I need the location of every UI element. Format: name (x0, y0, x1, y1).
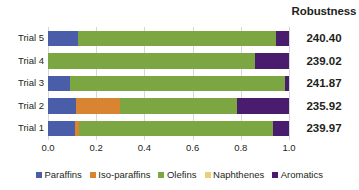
row-label-trial-5: Trial 5 (0, 27, 44, 50)
stacked-bar-chart: Robustness Trial 5240.40Trial 4239.02Tri… (0, 0, 359, 190)
chart-row: Trial 2235.92 (0, 95, 359, 118)
bar-segment-paraffins (48, 31, 78, 46)
robustness-column-header: Robustness (289, 5, 359, 17)
x-tick-label: 0.2 (76, 142, 116, 153)
row-label-trial-2: Trial 2 (0, 95, 44, 118)
chart-row: Trial 4239.02 (0, 50, 359, 73)
row-label-trial-1: Trial 1 (0, 117, 44, 140)
legend-item-olefins[interactable]: Olefins (158, 170, 196, 180)
x-axis: 0.00.20.40.60.81.0 (0, 140, 359, 160)
legend-label: Naphthenes (213, 170, 264, 180)
x-tick-label: 0.6 (173, 142, 213, 153)
legend-swatch-icon (36, 172, 42, 178)
row-label-trial-4: Trial 4 (0, 50, 44, 73)
bar-track (48, 76, 289, 91)
robustness-value: 239.02 (289, 50, 359, 73)
x-tick-label: 0.8 (221, 142, 261, 153)
chart-row: Trial 3241.87 (0, 72, 359, 95)
bar-segment-olefins (79, 121, 273, 136)
legend-item-iso-paraffins[interactable]: Iso-paraffins (90, 170, 151, 180)
bar-segment-aromatics (276, 31, 289, 46)
bar-track (48, 121, 289, 136)
bar-segment-olefins (78, 31, 276, 46)
legend-label: Olefins (167, 170, 197, 180)
chart-row: Trial 1239.97 (0, 117, 359, 140)
bar-segment-olefins (120, 98, 237, 113)
legend-label: Aromatics (281, 170, 323, 180)
chart-plot-area: Trial 5240.40Trial 4239.02Trial 3241.87T… (0, 27, 359, 140)
bar-track (48, 31, 289, 46)
legend-swatch-icon (205, 172, 211, 178)
bar-segment-paraffins (48, 76, 70, 91)
row-label-trial-3: Trial 3 (0, 72, 44, 95)
robustness-value: 239.97 (289, 117, 359, 140)
robustness-value: 235.92 (289, 95, 359, 118)
legend-swatch-icon (272, 172, 278, 178)
robustness-value: 241.87 (289, 72, 359, 95)
bar-segment-olefins (70, 76, 286, 91)
bar-segment-olefins (48, 53, 255, 68)
bar-segment-aromatics (273, 121, 289, 136)
legend-swatch-icon (158, 172, 164, 178)
x-tick-label: 1.0 (269, 142, 309, 153)
legend-item-naphthenes[interactable]: Naphthenes (205, 170, 265, 180)
bar-track (48, 53, 289, 68)
bar-segment-aromatics (237, 98, 289, 113)
robustness-value: 240.40 (289, 27, 359, 50)
legend-item-paraffins[interactable]: Paraffins (36, 170, 82, 180)
bar-segment-iso-paraffins (76, 98, 121, 113)
bar-track (48, 98, 289, 113)
bar-segment-aromatics (255, 53, 289, 68)
x-tick-label: 0.4 (124, 142, 164, 153)
bar-segment-paraffins (48, 121, 75, 136)
chart-row: Trial 5240.40 (0, 27, 359, 50)
legend-label: Paraffins (45, 170, 82, 180)
legend-swatch-icon (90, 172, 96, 178)
chart-legend: ParaffinsIso-paraffinsOlefinsNaphthenesA… (0, 166, 359, 184)
x-tick-label: 0.0 (28, 142, 68, 153)
legend-label: Iso-paraffins (98, 170, 150, 180)
bar-segment-paraffins (48, 98, 76, 113)
legend-item-aromatics[interactable]: Aromatics (272, 170, 323, 180)
